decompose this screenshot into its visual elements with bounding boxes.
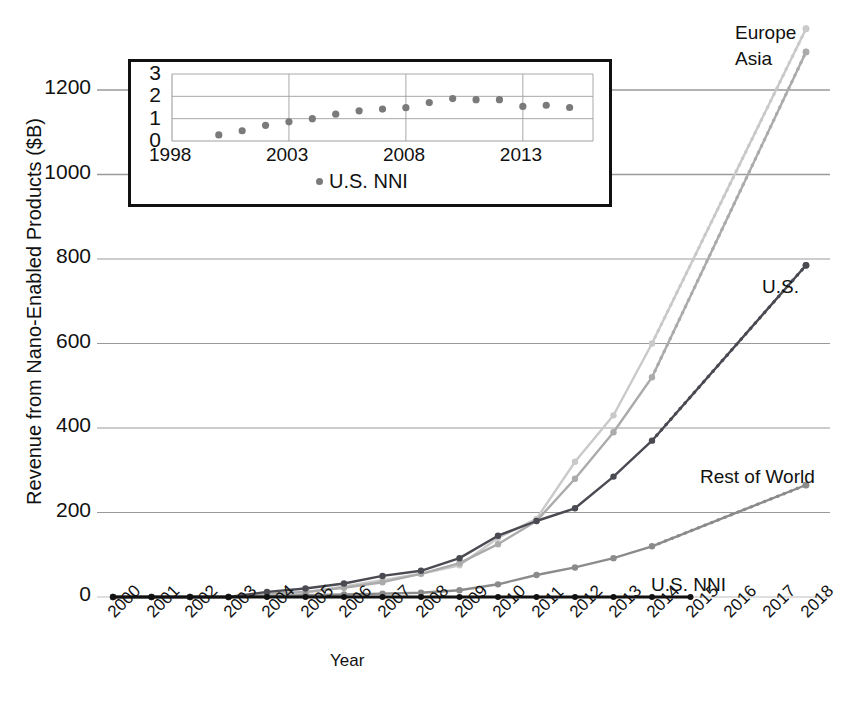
data-point — [533, 518, 539, 524]
inset-data-point — [239, 127, 246, 134]
data-point — [572, 476, 578, 482]
inset-x-tick-label: 2008 — [383, 144, 425, 166]
inset-data-point — [496, 96, 503, 103]
inset-data-point — [215, 131, 222, 138]
inset-data-point — [285, 118, 292, 125]
data-point — [572, 505, 578, 511]
series-label: Europe — [735, 22, 796, 44]
inset-data-point — [356, 107, 363, 114]
data-point — [572, 564, 578, 570]
data-point — [379, 573, 385, 579]
data-point — [533, 572, 539, 578]
data-point — [495, 541, 501, 547]
inset-x-tick-label: 2003 — [266, 144, 308, 166]
data-point — [341, 580, 347, 586]
inset-legend: U.S. NNI — [316, 170, 408, 193]
inset-data-point — [309, 115, 316, 122]
series-label: Rest of World — [700, 466, 815, 488]
inset-x-tick-label: 2013 — [500, 144, 542, 166]
inset-y-tick-label: 2 — [139, 83, 161, 107]
series-label: U.S. NNI — [651, 574, 726, 596]
data-point — [610, 555, 616, 561]
inset-data-point — [426, 99, 433, 106]
inset-data-point — [543, 102, 550, 109]
data-point — [495, 581, 501, 587]
x-axis-title: Year — [330, 651, 364, 671]
inset-legend-label: U.S. NNI — [329, 170, 408, 192]
inset-data-point — [449, 95, 456, 102]
inset-data-point — [566, 104, 573, 111]
data-point — [379, 579, 385, 585]
y-tick-label: 400 — [1, 413, 91, 437]
inset-data-point — [379, 105, 386, 112]
y-tick-label: 1200 — [1, 75, 91, 99]
series-label: U.S. — [762, 276, 799, 298]
data-point — [610, 412, 616, 418]
inset-data-point — [332, 111, 339, 118]
data-point — [803, 25, 810, 32]
inset-data-point — [262, 122, 269, 129]
y-axis-title: Revenue from Nano-Enabled Products ($B) — [23, 72, 46, 552]
inset-y-tick-label: 3 — [139, 61, 161, 85]
y-tick-label: 1000 — [1, 160, 91, 184]
y-tick-label: 0 — [1, 582, 91, 606]
chart-figure: Revenue from Nano-Enabled Products ($B) … — [0, 0, 851, 701]
data-point — [572, 459, 578, 465]
inset-legend-dot-icon — [316, 178, 323, 185]
y-tick-label: 600 — [1, 329, 91, 353]
data-point — [456, 587, 462, 593]
data-point — [456, 555, 462, 561]
data-point — [418, 568, 424, 574]
data-point — [610, 473, 616, 479]
data-point — [803, 49, 810, 56]
inset-data-point — [472, 96, 479, 103]
data-point — [803, 262, 810, 269]
data-point — [302, 585, 308, 591]
data-point — [610, 429, 616, 435]
inset-y-tick-label: 1 — [139, 106, 161, 130]
inset-panel: 0123 1998200320082013 U.S. NNI — [128, 59, 612, 207]
inset-x-tick-label: 1998 — [149, 144, 191, 166]
series-label: Asia — [735, 48, 772, 70]
data-point — [495, 533, 501, 539]
inset-data-point — [402, 104, 409, 111]
y-tick-label: 200 — [1, 498, 91, 522]
series-line — [113, 265, 806, 597]
y-tick-label: 800 — [1, 244, 91, 268]
inset-data-point — [519, 103, 526, 110]
